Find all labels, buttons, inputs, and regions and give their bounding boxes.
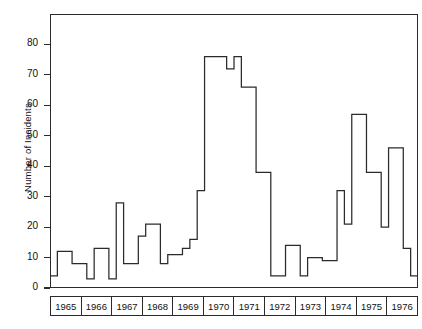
y-axis-title: Number of Incidents bbox=[22, 53, 33, 243]
x-axis-year-1976: 1976 bbox=[387, 297, 417, 315]
y-tick-label-20: 20 bbox=[10, 220, 38, 231]
y-tick-label-60: 60 bbox=[10, 98, 38, 109]
y-tick-label-80: 80 bbox=[10, 37, 38, 48]
y-tick-label-30: 30 bbox=[10, 190, 38, 201]
y-tick-label-70: 70 bbox=[10, 68, 38, 79]
x-axis-year-1971: 1971 bbox=[234, 297, 265, 315]
x-axis-year-1967: 1967 bbox=[112, 297, 143, 315]
y-tick-label-40: 40 bbox=[10, 159, 38, 170]
x-axis-year-1968: 1968 bbox=[143, 297, 174, 315]
x-axis-year-1970: 1970 bbox=[204, 297, 235, 315]
x-axis-year-1972: 1972 bbox=[265, 297, 296, 315]
plot-area bbox=[50, 14, 418, 288]
y-tick-label-0: 0 bbox=[10, 281, 38, 292]
x-axis-year-1975: 1975 bbox=[357, 297, 388, 315]
x-axis-year-1974: 1974 bbox=[326, 297, 357, 315]
incidents-step-series bbox=[50, 14, 418, 288]
chart-figure: Number of Incidents 01020304050607080 19… bbox=[0, 0, 422, 329]
x-axis-year-strip: 1965196619671968196919701971197219731974… bbox=[50, 296, 418, 316]
y-tick-label-50: 50 bbox=[10, 129, 38, 140]
step-polyline bbox=[50, 57, 418, 288]
y-tick-label-10: 10 bbox=[10, 251, 38, 262]
x-axis-year-1965: 1965 bbox=[51, 297, 82, 315]
x-axis-year-1969: 1969 bbox=[173, 297, 204, 315]
x-axis-year-1966: 1966 bbox=[82, 297, 113, 315]
x-axis-year-1973: 1973 bbox=[296, 297, 327, 315]
